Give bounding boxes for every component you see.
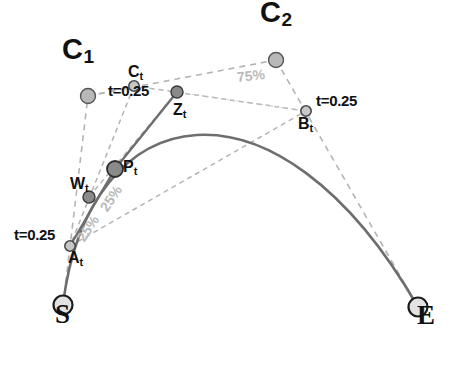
t-label-bt: t=0.25	[316, 93, 357, 108]
point-label-text-e: E	[417, 300, 435, 330]
construction-segment-bt-ct	[134, 86, 306, 111]
subscript-c1: 1	[83, 46, 93, 67]
t-label-bt-text: t=0.25	[316, 92, 357, 109]
point-label-text-pt: P	[123, 158, 134, 175]
point-label-bt: Bt	[298, 116, 313, 132]
construction-lines-group	[70, 86, 306, 246]
t-label-at-text: t=0.25	[14, 226, 55, 243]
subscript-bt: t	[310, 122, 314, 134]
subscript-ct: t	[140, 70, 144, 82]
subscript-pt: t	[134, 165, 138, 177]
point-label-text-at: A	[68, 249, 80, 266]
point-label-text-ct: C	[128, 63, 140, 80]
point-label-text-c1: C	[62, 33, 82, 65]
point-label-c2: C2	[260, 0, 291, 27]
subscript-wt: t	[85, 182, 89, 194]
point-label-wt: Wt	[70, 176, 89, 192]
point-marker-zt	[171, 86, 183, 98]
t-label-ct-text: t=0.25	[108, 82, 149, 99]
point-label-pt: Pt	[123, 159, 137, 175]
solid-segment-pt-zt	[115, 92, 177, 169]
subscript-zt: t	[183, 108, 187, 120]
point-label-at: At	[68, 250, 83, 266]
t-label-at: t=0.25	[14, 227, 55, 242]
point-label-text-wt: W	[70, 175, 85, 192]
subscript-at: t	[80, 256, 84, 268]
pct-75: 75%	[236, 67, 265, 84]
t-label-ct: t=0.25	[108, 83, 149, 98]
point-label-zt: Zt	[173, 102, 186, 118]
point-marker-c1	[81, 89, 96, 104]
point-label-text-zt: Z	[173, 101, 183, 118]
point-label-s: S	[55, 301, 70, 328]
pct-75-text: 75%	[236, 66, 266, 85]
subscript-c2: 2	[281, 9, 291, 30]
point-label-text-c2: C	[260, 0, 280, 28]
construction-segment-at-bt	[70, 111, 306, 246]
point-label-c1: C1	[62, 35, 93, 64]
point-label-text-s: S	[55, 299, 70, 329]
point-marker-pt	[107, 161, 123, 177]
point-marker-c2	[269, 53, 284, 68]
bezier-construction-figure: SEC1C2AtBtCtWtZtPtt=0.25t=0.25t=0.2575%2…	[0, 0, 452, 369]
point-label-ct: Ct	[128, 64, 143, 80]
point-label-e: E	[417, 302, 435, 329]
point-label-text-bt: B	[298, 115, 310, 132]
